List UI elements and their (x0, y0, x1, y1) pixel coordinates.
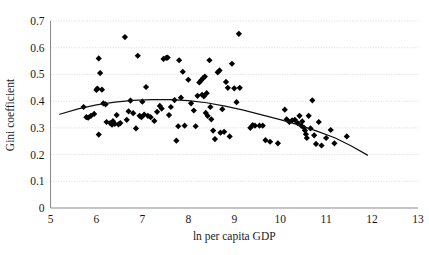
chart-canvas: 00.10.20.30.40.50.60.7 5678910111213 Gin… (0, 0, 429, 255)
data-point (344, 133, 350, 139)
data-point (233, 99, 239, 105)
data-point (225, 85, 231, 91)
data-point (206, 57, 212, 63)
data-point (99, 87, 105, 93)
y-tick-label: 0.1 (30, 175, 45, 187)
data-point (309, 97, 315, 103)
data-point (185, 77, 191, 83)
data-point (219, 106, 225, 112)
y-tick-label: 0.6 (30, 42, 45, 54)
axis-lines (51, 21, 419, 208)
data-point (296, 113, 302, 119)
data-point (207, 104, 213, 110)
data-point (331, 140, 337, 146)
data-point (168, 104, 174, 110)
data-point (227, 133, 233, 139)
data-point (212, 136, 218, 142)
x-tick-label: 8 (185, 213, 191, 225)
x-tick-label: 11 (321, 213, 332, 225)
data-point (133, 125, 139, 131)
data-point (229, 61, 235, 67)
data-point (180, 69, 186, 75)
data-point (237, 85, 243, 91)
data-point-markers (80, 31, 349, 149)
x-tick-label: 13 (412, 213, 424, 225)
gridlines (51, 21, 419, 181)
y-tick-label: 0.5 (30, 68, 45, 80)
data-point (328, 127, 334, 133)
data-point (97, 70, 103, 76)
y-tick-label: 0.3 (30, 122, 45, 134)
y-tick-label: 0.7 (30, 15, 45, 27)
x-tick-label: 7 (140, 213, 146, 225)
data-point (318, 142, 324, 148)
data-point (282, 107, 288, 113)
scatter-chart: 00.10.20.30.40.50.60.7 5678910111213 Gin… (0, 0, 429, 255)
data-point (122, 34, 128, 40)
data-point (236, 31, 242, 37)
data-point (96, 55, 102, 61)
data-point (143, 84, 149, 90)
x-tick-label: 6 (94, 213, 100, 225)
x-axis-title: ln per capita GDP (193, 230, 276, 243)
data-point (124, 117, 130, 123)
x-tick-label: 10 (274, 213, 286, 225)
x-tick-label: 9 (231, 213, 237, 225)
y-tick-label: 0.2 (30, 149, 45, 161)
x-tick-label: 12 (366, 213, 378, 225)
y-tick-label: 0 (39, 202, 45, 214)
data-point (275, 140, 281, 146)
data-point (313, 141, 319, 147)
data-point (175, 123, 181, 129)
data-point (173, 138, 179, 144)
data-point (316, 119, 322, 125)
data-point (306, 113, 312, 119)
data-point (182, 123, 188, 129)
data-point (193, 123, 199, 129)
data-point (194, 93, 200, 99)
data-point (210, 127, 216, 133)
data-point (191, 107, 197, 113)
data-point (311, 132, 317, 138)
data-point (96, 131, 102, 137)
data-point (166, 112, 172, 118)
data-point (154, 109, 160, 115)
data-point (114, 112, 120, 118)
data-point (135, 53, 141, 59)
data-point (231, 85, 237, 91)
x-tick-labels: 5678910111213 (48, 213, 424, 225)
x-tick-label: 5 (48, 213, 54, 225)
y-axis-title: Gini coefficient (4, 78, 16, 151)
y-tick-label: 0.4 (30, 95, 45, 107)
data-point (260, 123, 266, 129)
y-tick-labels: 00.10.20.30.40.50.60.7 (30, 15, 45, 214)
data-point (223, 79, 229, 85)
data-point (176, 57, 182, 63)
